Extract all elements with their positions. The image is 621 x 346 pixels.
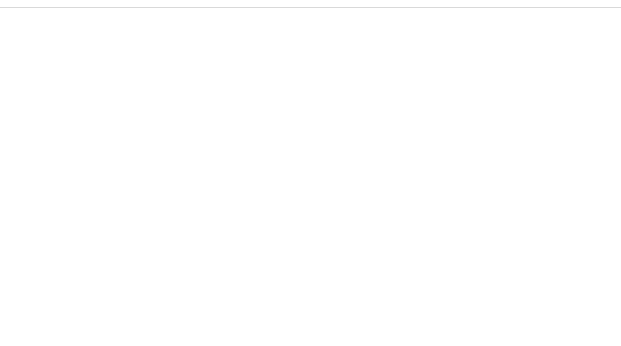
chart-legend (0, 324, 621, 342)
top-divider (0, 7, 621, 8)
country-rank-chart (0, 14, 621, 346)
